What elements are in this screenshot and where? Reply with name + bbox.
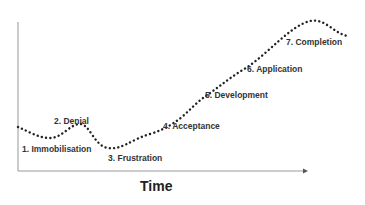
x-axis-title: Time xyxy=(140,178,173,194)
stage-label-application: 6. Application xyxy=(247,64,302,74)
stage-label-development: 5. Development xyxy=(205,90,268,100)
stage-label-frustration: 3. Frustration xyxy=(108,153,162,163)
stage-label-completion: 7. Completion xyxy=(286,37,342,47)
stage-label-denial: 2. Denial xyxy=(54,116,89,126)
x-axis-arrow-icon xyxy=(303,169,308,174)
stage-label-acceptance: 4. Acceptance xyxy=(163,121,220,131)
change-curve-diagram: 1. Immobilisation 2. Denial 3. Frustrati… xyxy=(0,0,365,205)
stage-label-immobilisation: 1. Immobilisation xyxy=(22,144,91,154)
